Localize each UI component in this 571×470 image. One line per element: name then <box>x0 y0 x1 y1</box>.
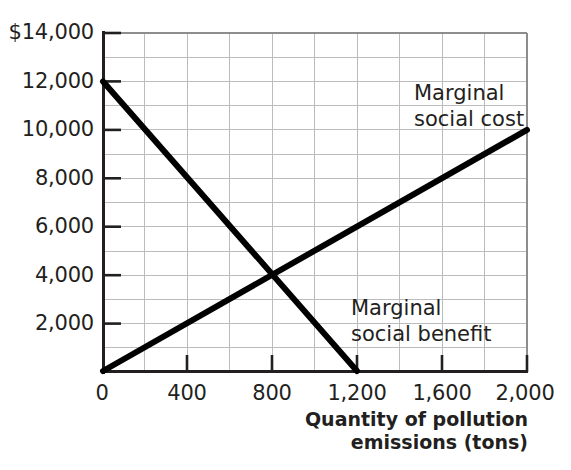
pollution-externality-chart: $14,000 12,000 10,000 8,000 6,000 4,000 … <box>0 0 571 470</box>
x-axis-title-line-2: emissions (tons) <box>180 431 528 454</box>
x-axis-title: Quantity of pollution emissions (tons) <box>180 408 528 454</box>
series-label-msb-line-1: Marginal <box>351 295 492 321</box>
series-label-msc-line-2: social cost <box>414 106 524 132</box>
xtick-2000: 2,000 <box>470 382 571 404</box>
series-label-marginal-social-benefit: Marginal social benefit <box>351 295 492 347</box>
x-axis-title-line-1: Quantity of pollution <box>180 408 528 431</box>
series-label-marginal-social-cost: Marginal social cost <box>414 80 524 132</box>
y-axis-ticks <box>104 33 121 324</box>
series-label-msc-line-1: Marginal <box>414 80 524 106</box>
series-label-msb-line-2: social benefit <box>351 321 492 347</box>
